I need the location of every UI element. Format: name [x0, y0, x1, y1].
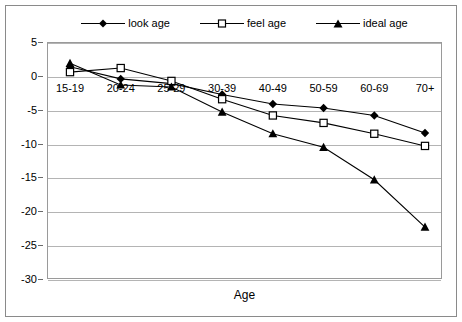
- y-axis-tick-mark: [38, 279, 43, 280]
- gridline: [48, 280, 441, 281]
- y-axis-tick-mark: [38, 177, 43, 178]
- x-axis-tick-label: 15-19: [56, 82, 84, 94]
- y-axis-tick-mark: [38, 42, 43, 43]
- legend-label-feel-age: feel age: [247, 17, 286, 29]
- open-square-icon: [200, 18, 244, 29]
- x-axis-tick-label: 50-59: [309, 82, 337, 94]
- legend-item-feel-age: feel age: [200, 17, 286, 29]
- x-axis-tick-labels: 15-1920-2425-2930-3940-4950-5960-6970+: [48, 43, 443, 280]
- y-axis-tick-mark: [38, 211, 43, 212]
- x-axis-tick-label: 70+: [416, 82, 435, 94]
- filled-diamond-icon: [81, 18, 125, 29]
- y-axis-tick-label: -15: [21, 171, 37, 183]
- legend-label-ideal-age: ideal age: [363, 17, 408, 29]
- y-axis: 50-5-10-15-20-25-30: [5, 42, 43, 279]
- filled-triangle-icon: [316, 18, 360, 29]
- x-axis-tick-label: 20-24: [107, 82, 135, 94]
- chart-screenshot: look age feel age ideal age 50-5-10-15-2…: [0, 0, 462, 322]
- legend-item-ideal-age: ideal age: [316, 17, 408, 29]
- y-axis-tick-label: -30: [21, 273, 37, 285]
- x-axis-tick-label: 25-29: [157, 82, 185, 94]
- y-axis-tick-mark: [38, 76, 43, 77]
- y-axis-tick-label: 5: [31, 36, 37, 48]
- y-axis-tick-mark: [38, 110, 43, 111]
- y-axis-tick-label: 0: [31, 70, 37, 82]
- x-axis-tick-label: 40-49: [259, 82, 287, 94]
- legend-label-look-age: look age: [128, 17, 170, 29]
- y-axis-tick-label: -25: [21, 239, 37, 251]
- legend-item-look-age: look age: [81, 17, 170, 29]
- plot-area: 15-1920-2425-2930-3940-4950-5960-6970+: [47, 42, 442, 279]
- y-axis-tick-mark: [38, 245, 43, 246]
- x-axis-tick-label: 30-39: [208, 82, 236, 94]
- y-axis-tick-label: -20: [21, 205, 37, 217]
- y-axis-tick-label: -10: [21, 138, 37, 150]
- x-axis-tick-label: 60-69: [360, 82, 388, 94]
- chart-legend: look age feel age ideal age: [47, 14, 442, 32]
- y-axis-tick-mark: [38, 144, 43, 145]
- y-axis-tick-label: -5: [27, 104, 37, 116]
- x-axis-title: Age: [47, 288, 442, 302]
